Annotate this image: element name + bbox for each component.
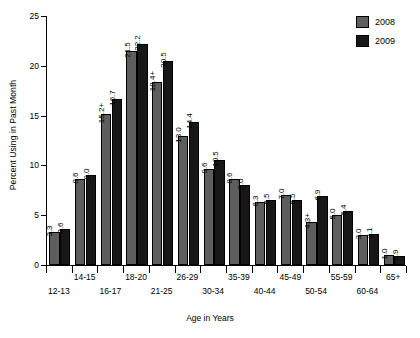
bar-value-label: 8.6 xyxy=(226,173,234,184)
bar-2009-12-13: 3.6 xyxy=(60,229,70,265)
bar-value-label: 6.3 xyxy=(252,196,260,207)
x-axis-tick-mark xyxy=(406,266,407,273)
x-axis-title: Age in Years xyxy=(0,313,420,323)
bar-value-label: 8.0 xyxy=(237,179,245,190)
x-axis-category-label: 50-54 xyxy=(305,286,327,296)
bar-group: 21.522.2 xyxy=(124,16,150,265)
bar-group: 9.610.5 xyxy=(201,16,227,265)
bar-2008-35-39: 8.6 xyxy=(229,179,239,265)
bar-2008-60-64: 3.0 xyxy=(358,235,368,265)
bar-2009-55-59: 5.4 xyxy=(343,211,353,265)
bar-2008-16-17: 15.2+ xyxy=(101,114,111,265)
y-axis-tick-label: 15 xyxy=(30,111,39,121)
bar-group: 5.05.4 xyxy=(330,16,356,265)
bar-value-label: 6.5 xyxy=(289,194,297,205)
bar-2009-45-49: 6.5 xyxy=(292,200,302,265)
x-axis-category-label: 60-64 xyxy=(357,286,379,296)
bar-2009-60-64: 3.1 xyxy=(369,234,379,265)
legend-label-2008: 2008 xyxy=(375,17,395,27)
bar-value-label: 22.2 xyxy=(134,35,142,51)
plot-area: 0510152025 3.33.68.69.015.2+16.721.522.2… xyxy=(46,16,406,265)
y-axis-tick-mark xyxy=(41,165,46,166)
bar-2009-30-34: 10.5 xyxy=(214,160,224,265)
bar-2008-14-15: 8.6 xyxy=(75,179,85,265)
bar-value-label: 18.4+ xyxy=(149,71,157,91)
x-axis-category-label: 26-29 xyxy=(177,272,199,282)
legend-label-2009: 2009 xyxy=(375,36,395,46)
bar-chart: Percent Using in Past Month 0510152025 3… xyxy=(0,0,420,338)
x-axis-category-label: 55-59 xyxy=(331,272,353,282)
y-axis-tick-label: 20 xyxy=(30,61,39,71)
bar-2008-50-54: 4.3+ xyxy=(306,222,316,265)
bar-2009-16-17: 16.7 xyxy=(112,99,122,265)
bar-group: 8.68.0 xyxy=(227,16,253,265)
x-axis-category-label: 14-15 xyxy=(74,272,96,282)
y-axis-tick-label: 10 xyxy=(30,160,39,170)
bar-group: 1.00.9 xyxy=(381,16,407,265)
x-axis-category-label: 18-20 xyxy=(125,272,147,282)
bar-group: 3.33.6 xyxy=(47,16,73,265)
bar-value-label: 6.5 xyxy=(263,194,271,205)
bar-value-label: 1.0 xyxy=(381,248,389,259)
x-axis-category-label: 12-13 xyxy=(48,286,70,296)
bar-2009-14-15: 9.0 xyxy=(86,175,96,265)
legend-item-2008: 2008 xyxy=(356,14,418,30)
bars-container: 3.33.68.69.015.2+16.721.522.218.4+20.513… xyxy=(47,16,406,265)
bar-value-label: 16.7 xyxy=(109,90,117,106)
bar-2008-40-44: 6.3 xyxy=(255,202,265,265)
bar-group: 15.2+16.7 xyxy=(98,16,124,265)
y-axis-tick-mark xyxy=(41,16,46,17)
bar-2009-21-25: 20.5 xyxy=(163,61,173,265)
legend-item-2009: 2009 xyxy=(356,33,418,49)
x-axis-category-label: 45-49 xyxy=(279,272,301,282)
y-axis-tick-label: 25 xyxy=(30,11,39,21)
bar-2008-12-13: 3.3 xyxy=(49,232,59,265)
x-axis-category-label: 65+ xyxy=(386,272,400,282)
bar-value-label: 9.0 xyxy=(83,169,91,180)
bar-value-label: 15.2+ xyxy=(98,102,106,122)
bar-2009-65+: 0.9 xyxy=(394,256,404,265)
bar-group: 4.3+6.9 xyxy=(304,16,330,265)
x-axis-category-label: 35-39 xyxy=(228,272,250,282)
bar-2008-45-49: 7.0 xyxy=(281,195,291,265)
bar-value-label: 7.0 xyxy=(278,189,286,200)
bar-value-label: 6.9 xyxy=(314,190,322,201)
bar-group: 8.69.0 xyxy=(73,16,99,265)
bar-group: 3.03.1 xyxy=(356,16,382,265)
bar-2009-40-44: 6.5 xyxy=(266,200,276,265)
bar-group: 13.014.4 xyxy=(176,16,202,265)
bar-group: 6.36.5 xyxy=(253,16,279,265)
x-axis-category-label: 30-34 xyxy=(202,286,224,296)
bar-value-label: 20.5 xyxy=(160,52,168,68)
y-axis-tick-mark xyxy=(41,116,46,117)
bar-value-label: 3.0 xyxy=(355,229,363,240)
x-axis-category-label: 40-44 xyxy=(254,286,276,296)
bar-2009-26-29: 14.4 xyxy=(189,122,199,265)
bar-2008-55-59: 5.0 xyxy=(332,215,342,265)
bar-2008-30-34: 9.6 xyxy=(204,169,214,265)
bar-value-label: 0.9 xyxy=(392,249,400,260)
legend-swatch-icon-2009 xyxy=(356,35,369,47)
bar-value-label: 3.1 xyxy=(366,228,374,239)
y-axis-tick-mark xyxy=(41,215,46,216)
bar-value-label: 9.6 xyxy=(201,163,209,174)
bar-value-label: 4.3+ xyxy=(304,213,312,229)
y-axis-tick-mark xyxy=(41,66,46,67)
bar-value-label: 3.3 xyxy=(46,226,54,237)
legend: 2008 2009 xyxy=(356,14,418,52)
y-axis-title: Percent Using in Past Month xyxy=(8,30,18,240)
bar-value-label: 5.0 xyxy=(329,209,337,220)
bar-2008-18-20: 21.5 xyxy=(126,51,136,265)
bar-value-label: 13.0 xyxy=(175,127,183,143)
x-axis-category-label: 21-25 xyxy=(151,286,173,296)
bar-2008-26-29: 13.0 xyxy=(178,136,188,265)
bar-2009-50-54: 6.9 xyxy=(317,196,327,265)
bar-value-label: 8.6 xyxy=(72,173,80,184)
bar-2009-18-20: 22.2 xyxy=(137,44,147,265)
bar-group: 18.4+20.5 xyxy=(150,16,176,265)
bar-value-label: 21.5 xyxy=(124,42,132,58)
bar-value-label: 14.4 xyxy=(186,113,194,129)
bar-value-label: 5.4 xyxy=(340,205,348,216)
bar-2008-21-25: 18.4+ xyxy=(152,82,162,265)
y-axis-tick-label: 5 xyxy=(34,210,39,220)
